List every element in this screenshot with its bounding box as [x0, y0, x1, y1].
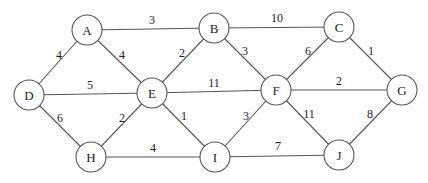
- edge-weight-b-c: 10: [271, 11, 283, 25]
- edge-weight-d-h: 6: [57, 111, 63, 125]
- edge-weight-d-e: 5: [87, 78, 93, 92]
- weighted-graph-diagram: 3104423615112621311847 ABCDEFGHIJ: [0, 0, 428, 183]
- edge-weight-f-j: 11: [303, 107, 315, 121]
- node-label: G: [397, 83, 406, 98]
- node-label: D: [24, 88, 33, 103]
- edge-weight-b-e: 2: [179, 46, 185, 60]
- edge-weight-b-f: 3: [242, 44, 248, 58]
- node-i: I: [200, 142, 230, 172]
- node-label: H: [86, 150, 95, 165]
- edges-layer: [29, 27, 402, 157]
- node-j: J: [324, 140, 354, 170]
- edge-weight-i-j: 7: [275, 139, 281, 153]
- edge-weight-a-d: 4: [56, 48, 62, 62]
- edge-weight-f-g: 2: [336, 74, 342, 88]
- node-label: B: [210, 21, 219, 36]
- edge-b-c: [214, 27, 339, 28]
- node-g: G: [387, 75, 417, 105]
- edge-weight-c-g: 1: [368, 44, 374, 58]
- node-e: E: [137, 78, 167, 108]
- edge-i-j: [215, 155, 339, 157]
- edge-weight-a-b: 3: [149, 13, 155, 27]
- node-label: J: [336, 148, 341, 163]
- edge-weight-c-f: 6: [305, 44, 311, 58]
- edge-e-f: [152, 90, 276, 93]
- edge-d-e: [29, 93, 152, 95]
- edge-weight-g-j: 8: [367, 107, 373, 121]
- edge-a-b: [87, 28, 214, 30]
- node-label: A: [82, 23, 92, 38]
- edge-weight-h-i: 4: [150, 141, 156, 155]
- edge-weight-e-h: 2: [119, 111, 125, 125]
- edge-weight-e-f: 11: [208, 76, 220, 90]
- node-b: B: [199, 13, 229, 43]
- edge-weight-f-i: 3: [243, 109, 249, 123]
- node-h: H: [76, 142, 106, 172]
- node-label: I: [213, 150, 217, 165]
- node-f: F: [261, 75, 291, 105]
- edge-weight-e-i: 1: [181, 109, 187, 123]
- node-a: A: [72, 15, 102, 45]
- node-label: F: [272, 83, 279, 98]
- node-label: E: [148, 86, 156, 101]
- node-label: C: [335, 20, 344, 35]
- node-c: C: [324, 12, 354, 42]
- node-d: D: [14, 80, 44, 110]
- edge-weight-a-e: 4: [119, 48, 125, 62]
